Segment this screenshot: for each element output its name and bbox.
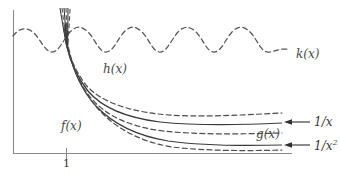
convergence-fan — [60, 8, 70, 45]
f-curve-group — [66, 24, 282, 146]
f-curve — [66, 24, 282, 146]
function-comparison-figure: k(x) h(x) f(x) g(x) 1/x 1/x2 1 — [0, 0, 340, 176]
curve-label-k: k(x) — [296, 48, 319, 60]
plot-canvas — [0, 0, 340, 176]
annotation-arrows — [284, 119, 310, 148]
x-axis-tick-label-one: 1 — [63, 158, 70, 169]
arrow-head-inv-x — [284, 119, 292, 125]
g-curve-group — [65, 25, 282, 134]
upper-asymptote-curve-group — [64, 30, 282, 116]
h-curve — [64, 27, 282, 125]
asymptote-label-inverse-x-squared-base: 1/x — [314, 139, 332, 153]
asymptote-label-inverse-x: 1/x — [314, 116, 332, 128]
arrow-head-inv-x2 — [284, 142, 292, 148]
inv-x-curve — [64, 30, 282, 116]
h-curve-group — [64, 27, 282, 125]
curve-label-g: g(x) — [256, 128, 280, 140]
curve-label-h: h(x) — [103, 63, 127, 75]
k-curve-group — [13, 27, 290, 52]
k-curve — [13, 27, 290, 52]
curve-label-f: f(x) — [61, 120, 82, 132]
g-curve — [65, 25, 282, 134]
inv-x2-curve — [67, 23, 282, 151]
lower-asymptote-curve-group — [67, 23, 282, 151]
asymptote-label-inverse-x-squared-exponent: 2 — [332, 138, 337, 147]
asymptote-label-inverse-x-squared: 1/x2 — [314, 139, 338, 152]
